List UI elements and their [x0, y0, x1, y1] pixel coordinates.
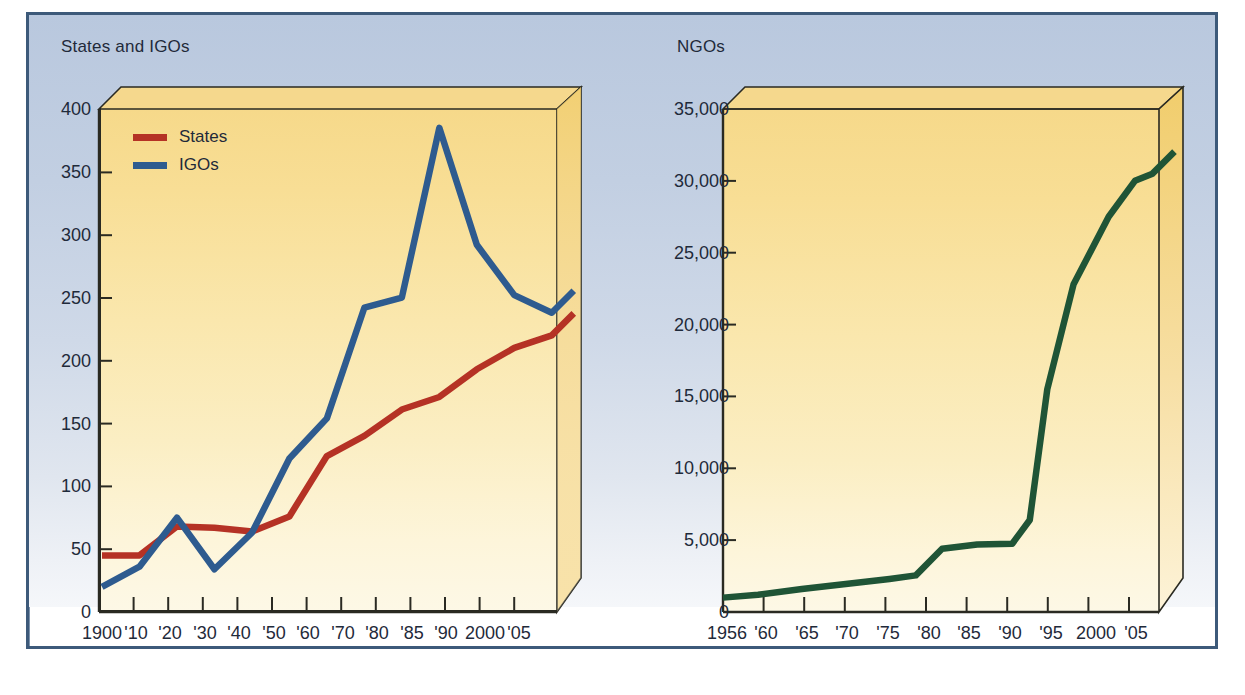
- xtick-label-right-4: '75: [876, 623, 899, 644]
- box-front-face-right: [723, 109, 1159, 612]
- xtick-label-left-9: '85: [400, 623, 423, 644]
- xtick-label-left-1: '10: [124, 623, 147, 644]
- figure-root: States and IGOs: [0, 0, 1245, 695]
- xtick-label-left-12: '05: [507, 623, 530, 644]
- legend-swatch-igos: [133, 162, 167, 169]
- ytick-label-right-35000: 35,000: [674, 99, 729, 120]
- y-ticks-left: [99, 172, 112, 549]
- ytick-label-right-0: 0: [719, 602, 729, 623]
- xtick-label-right-7: '90: [998, 623, 1021, 644]
- xtick-label-left-4: '40: [227, 623, 250, 644]
- xtick-label-right-5: '80: [917, 623, 940, 644]
- ytick-label-left-0: 0: [81, 602, 91, 623]
- xtick-label-left-6: '60: [296, 623, 319, 644]
- ytick-label-right-25000: 25,000: [674, 242, 729, 263]
- figure-frame: States and IGOs: [26, 12, 1218, 649]
- legend-label-igos: IGOs: [179, 155, 219, 175]
- xtick-label-left-5: '50: [262, 623, 285, 644]
- xtick-label-right-10: '05: [1124, 623, 1147, 644]
- xtick-label-left-11: 2000: [465, 623, 505, 644]
- ytick-label-right-5000: 5,000: [684, 530, 729, 551]
- xtick-label-left-8: '80: [365, 623, 388, 644]
- xtick-label-right-0: 1956: [707, 623, 747, 644]
- legend-swatch-states: [133, 134, 167, 141]
- ytick-label-left-350: 350: [61, 162, 91, 183]
- ytick-label-left-150: 150: [61, 413, 91, 434]
- legend-item-states: States: [133, 123, 227, 151]
- xtick-label-left-10: '90: [434, 623, 457, 644]
- ytick-label-left-200: 200: [61, 350, 91, 371]
- xtick-label-right-2: '65: [795, 623, 818, 644]
- box-top-face-left: [99, 87, 581, 109]
- ytick-label-left-250: 250: [61, 288, 91, 309]
- legend-label-states: States: [179, 127, 227, 147]
- legend-left: States IGOs: [133, 123, 227, 179]
- xtick-label-left-3: '30: [193, 623, 216, 644]
- xtick-label-right-9: 2000: [1076, 623, 1116, 644]
- xtick-label-left-0: 1900: [82, 623, 122, 644]
- series-lines-left: [102, 128, 574, 587]
- xtick-label-right-8: '95: [1039, 623, 1062, 644]
- xtick-label-left-7: '70: [331, 623, 354, 644]
- x-ticks-left: [134, 597, 515, 612]
- xtick-label-left-2: '20: [158, 623, 181, 644]
- chart-ngos: NGOs: [639, 15, 1215, 652]
- ytick-label-right-15000: 15,000: [674, 386, 729, 407]
- box-top-face-right: [723, 87, 1183, 109]
- legend-item-igos: IGOs: [133, 151, 227, 179]
- xtick-label-right-6: '85: [957, 623, 980, 644]
- ytick-label-left-400: 400: [61, 99, 91, 120]
- xtick-label-right-3: '70: [835, 623, 858, 644]
- ytick-label-right-30000: 30,000: [674, 170, 729, 191]
- xtick-label-right-1: '60: [754, 623, 777, 644]
- plot-3d-faces-left: [29, 15, 639, 652]
- ytick-label-right-20000: 20,000: [674, 314, 729, 335]
- chart-states-igos: States and IGOs: [29, 15, 639, 652]
- ytick-label-right-10000: 10,000: [674, 458, 729, 479]
- ytick-label-left-100: 100: [61, 476, 91, 497]
- ytick-label-left-300: 300: [61, 225, 91, 246]
- ytick-label-left-50: 50: [71, 539, 91, 560]
